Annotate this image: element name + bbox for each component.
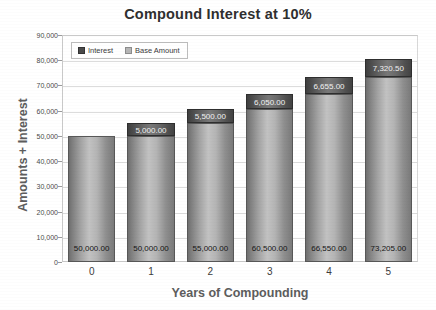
bar-segment-interest[interactable]: 5,500.00 — [187, 109, 234, 123]
y-axis-tick-mark — [58, 136, 62, 137]
bar-label-interest: 7,320.50 — [366, 64, 411, 73]
y-axis-tick-label: 80,000 — [4, 57, 58, 64]
legend-swatch-icon-interest — [78, 47, 85, 54]
x-axis-tick-label: 4 — [326, 266, 332, 277]
chart-title: Compound Interest at 10% — [0, 6, 436, 22]
bar-label-base-amount: 55,000.00 — [188, 244, 233, 253]
y-axis-tick-label: 0 — [4, 259, 58, 266]
bar-group[interactable]: 50,000.005,000.00 — [127, 35, 174, 262]
bar-group[interactable]: 60,500.006,050.00 — [246, 35, 293, 262]
compound-interest-chart: Compound Interest at 10% Amounts + Inter… — [0, 0, 436, 310]
bar-segment-interest[interactable]: 6,655.00 — [305, 77, 352, 94]
y-axis-tick-mark — [58, 85, 62, 86]
bar-group[interactable]: 50,000.00 — [68, 35, 115, 262]
bar-label-interest: 6,050.00 — [247, 97, 292, 106]
bar-segment-base-amount[interactable]: 50,000.00 — [127, 136, 174, 262]
y-axis-tick-label: 90,000 — [4, 32, 58, 39]
y-axis-tick-mark — [58, 237, 62, 238]
y-axis-tick-mark — [58, 262, 62, 263]
bars-layer: 50,000.0050,000.005,000.0055,000.005,500… — [62, 35, 418, 262]
bar-segment-base-amount[interactable]: 66,550.00 — [305, 94, 352, 262]
bar-group[interactable]: 66,550.006,655.00 — [305, 35, 352, 262]
bar-group[interactable]: 55,000.005,500.00 — [187, 35, 234, 262]
y-axis-tick-label: 40,000 — [4, 158, 58, 165]
x-axis-tick-label: 1 — [148, 266, 154, 277]
y-axis-tick-mark — [58, 35, 62, 36]
y-axis-tick-label: 10,000 — [4, 233, 58, 240]
legend-swatch-icon-base-amount — [125, 47, 132, 54]
chart-legend: Interest Base Amount — [71, 42, 188, 59]
legend-label-base-amount: Base Amount — [135, 46, 180, 55]
bar-segment-base-amount[interactable]: 60,500.00 — [246, 109, 293, 262]
bar-segment-interest[interactable]: 7,320.50 — [365, 59, 412, 77]
x-axis-tick-label: 2 — [208, 266, 214, 277]
y-axis-tick-mark — [58, 60, 62, 61]
y-axis-tick-mark — [58, 161, 62, 162]
y-axis-tick-label: 60,000 — [4, 107, 58, 114]
legend-entry-base-amount: Base Amount — [125, 46, 180, 55]
bar-label-base-amount: 60,500.00 — [247, 244, 292, 253]
bar-label-base-amount: 73,205.00 — [366, 244, 411, 253]
bar-segment-base-amount[interactable]: 73,205.00 — [365, 77, 412, 262]
x-axis-tick-label: 5 — [386, 266, 392, 277]
bar-group[interactable]: 73,205.007,320.50 — [365, 35, 412, 262]
bar-segment-base-amount[interactable]: 50,000.00 — [68, 136, 115, 262]
x-axis-tick-labels: 012345 — [62, 266, 418, 282]
legend-label-interest: Interest — [88, 46, 113, 55]
bar-segment-interest[interactable]: 5,000.00 — [127, 123, 174, 136]
y-axis-tick-mark — [58, 212, 62, 213]
bar-label-interest: 6,655.00 — [306, 81, 351, 90]
y-axis-tick-label: 70,000 — [4, 82, 58, 89]
y-axis-tick-label: 30,000 — [4, 183, 58, 190]
bar-label-base-amount: 50,000.00 — [128, 244, 173, 253]
y-axis-tick-mark — [58, 111, 62, 112]
bar-segment-base-amount[interactable]: 55,000.00 — [187, 123, 234, 262]
y-axis-tick-mark — [58, 186, 62, 187]
bar-segment-interest[interactable]: 6,050.00 — [246, 94, 293, 109]
x-axis-tick-label: 0 — [89, 266, 95, 277]
y-axis-tick-labels: 90,00080,00070,00060,00050,00040,00030,0… — [0, 35, 58, 262]
bar-label-base-amount: 66,550.00 — [306, 244, 351, 253]
bar-label-interest: 5,000.00 — [128, 125, 173, 134]
bar-label-interest: 5,500.00 — [188, 112, 233, 121]
legend-entry-interest: Interest — [78, 46, 113, 55]
y-axis-tick-label: 50,000 — [4, 132, 58, 139]
x-axis-tick-label: 3 — [267, 266, 273, 277]
bar-label-base-amount: 50,000.00 — [69, 244, 114, 253]
y-axis-tick-label: 20,000 — [4, 208, 58, 215]
x-axis-title: Years of Compounding — [62, 286, 418, 300]
